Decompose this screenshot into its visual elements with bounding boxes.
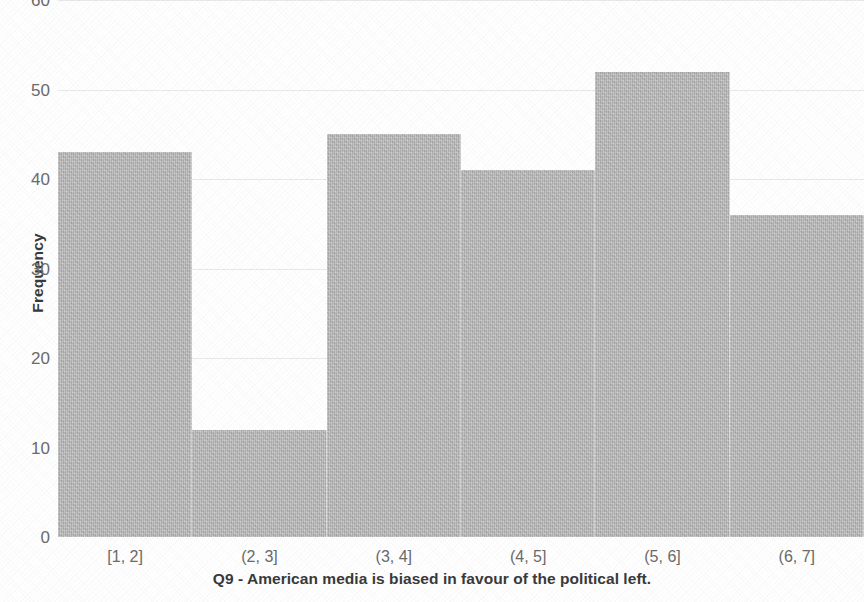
bar <box>58 152 192 537</box>
bar <box>730 215 864 537</box>
gridline <box>58 0 864 1</box>
y-tick-label: 60 <box>4 0 50 9</box>
histogram-chart: Frequency 0102030405060 [1, 2](2, 3](3, … <box>0 0 864 602</box>
bar <box>192 430 326 537</box>
x-tick-label: (2, 3] <box>241 548 277 566</box>
bar <box>327 134 461 537</box>
y-tick-label: 20 <box>4 350 50 367</box>
plot-area <box>58 0 864 537</box>
x-axis-title: Q9 - American media is biased in favour … <box>0 570 864 588</box>
bar <box>595 72 729 537</box>
x-tick-label: (5, 6] <box>644 548 680 566</box>
y-tick-label: 30 <box>4 260 50 277</box>
x-tick-label: (4, 5] <box>510 548 546 566</box>
y-tick-label: 50 <box>4 81 50 98</box>
y-tick-label: 0 <box>4 529 50 546</box>
x-tick-label: (3, 4] <box>376 548 412 566</box>
bar <box>461 170 595 537</box>
y-tick-label: 10 <box>4 439 50 456</box>
gridline <box>58 90 864 91</box>
y-axis-tick-labels: 0102030405060 <box>0 0 50 602</box>
x-tick-label: [1, 2] <box>107 548 143 566</box>
x-tick-label: (6, 7] <box>779 548 815 566</box>
y-tick-label: 40 <box>4 171 50 188</box>
x-axis-tick-labels: [1, 2](2, 3](3, 4](4, 5](5, 6](6, 7] <box>58 537 864 567</box>
